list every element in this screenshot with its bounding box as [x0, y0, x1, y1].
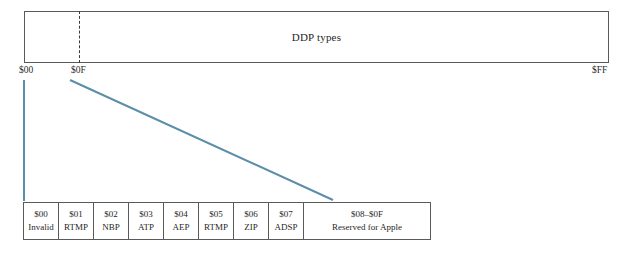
cell-code: $00	[34, 208, 48, 221]
table-cell: $02 NBP	[94, 203, 129, 239]
cell-code: $01	[69, 208, 83, 221]
ddp-type-range-bar: DDP types	[24, 11, 609, 63]
ddp-type-detail-table: $00 Invalid $01 RTMP $02 NBP $03 ATP $04…	[23, 202, 431, 240]
range-divider-dashed-line	[79, 11, 80, 63]
cell-name: NBP	[102, 221, 120, 234]
cell-name: Invalid	[28, 221, 54, 234]
axis-label-divider: $0F	[71, 65, 86, 75]
table-cell: $00 Invalid	[24, 203, 59, 239]
table-cell: $05 RTMP	[199, 203, 234, 239]
callout-line-right	[70, 80, 333, 200]
ddp-types-diagram: DDP types $00 $0F $FF $00 Invalid $01 RT…	[0, 0, 632, 260]
cell-name: Reserved for Apple	[332, 221, 402, 234]
table-cell: $06 ZIP	[234, 203, 269, 239]
cell-name: ADSP	[274, 221, 297, 234]
cell-name: AEP	[172, 221, 189, 234]
table-cell: $01 RTMP	[59, 203, 94, 239]
cell-code: $06	[244, 208, 258, 221]
cell-name: ATP	[138, 221, 154, 234]
axis-label-end: $FF	[592, 65, 607, 75]
cell-code: $04	[174, 208, 188, 221]
range-bar-label: DDP types	[25, 31, 608, 43]
cell-code: $02	[104, 208, 118, 221]
table-cell: $07 ADSP	[269, 203, 304, 239]
cell-code: $03	[139, 208, 153, 221]
table-cell: $03 ATP	[129, 203, 164, 239]
cell-code: $07	[279, 208, 293, 221]
axis-label-start: $00	[19, 65, 33, 75]
table-cell-reserved: $08–$0F Reserved for Apple	[304, 203, 430, 239]
table-cell: $04 AEP	[164, 203, 199, 239]
cell-code: $08–$0F	[351, 208, 383, 221]
cell-name: RTMP	[64, 221, 88, 234]
cell-name: RTMP	[204, 221, 228, 234]
cell-code: $05	[209, 208, 223, 221]
cell-name: ZIP	[244, 221, 258, 234]
